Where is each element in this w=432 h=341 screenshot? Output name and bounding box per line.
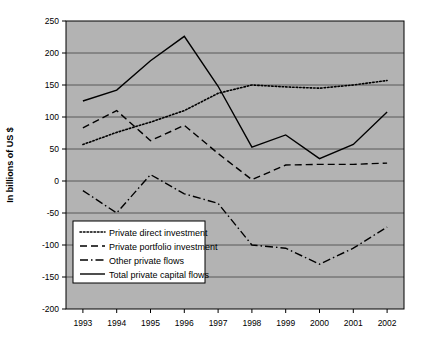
legend-label: Other private flows bbox=[109, 256, 185, 266]
x-axis-tick-label: 1997 bbox=[209, 318, 228, 328]
legend-label: Total private capital flows bbox=[109, 270, 210, 280]
x-axis-tick-labels: 1993199419951996199719981999200020012002 bbox=[73, 309, 396, 328]
x-axis-tick-label: 1998 bbox=[242, 318, 261, 328]
x-axis-tick-label: 1994 bbox=[107, 318, 126, 328]
chart-legend: Private direct investmentPrivate portfol… bbox=[73, 221, 218, 283]
x-axis-tick-label: 1993 bbox=[73, 318, 92, 328]
y-axis-tick-label: 50 bbox=[50, 144, 60, 154]
x-axis-tick-label: 2000 bbox=[310, 318, 329, 328]
x-axis-tick-label: 1995 bbox=[141, 318, 160, 328]
y-axis-tick-label: 250 bbox=[45, 16, 59, 26]
y-axis-tick-label: -100 bbox=[42, 240, 59, 250]
x-axis-tick-label: 1999 bbox=[276, 318, 295, 328]
y-axis-tick-label: 150 bbox=[45, 80, 59, 90]
chart-container: 250200150100500-50-100-150-200 199319941… bbox=[0, 0, 432, 341]
line-chart: 250200150100500-50-100-150-200 199319941… bbox=[0, 0, 432, 341]
x-axis-tick-label: 2002 bbox=[378, 318, 397, 328]
y-axis-tick-label: 200 bbox=[45, 48, 59, 58]
legend-label: Private direct investment bbox=[109, 228, 208, 238]
y-axis-tick-label: -150 bbox=[42, 272, 59, 282]
legend-label: Private portfolio investment bbox=[109, 242, 218, 252]
y-axis-tick-label: 100 bbox=[45, 112, 59, 122]
y-axis-tick-labels: 250200150100500-50-100-150-200 bbox=[42, 16, 59, 314]
x-axis-tick-label: 2001 bbox=[344, 318, 363, 328]
y-axis-tick-label: -50 bbox=[47, 208, 60, 218]
x-axis-tick-label: 1996 bbox=[175, 318, 194, 328]
y-axis-title: In billions of US $ bbox=[5, 127, 15, 203]
y-axis-title-text: In billions of US $ bbox=[5, 127, 15, 203]
y-axis-tick-label: -200 bbox=[42, 304, 59, 314]
y-axis-tick-label: 0 bbox=[54, 176, 59, 186]
